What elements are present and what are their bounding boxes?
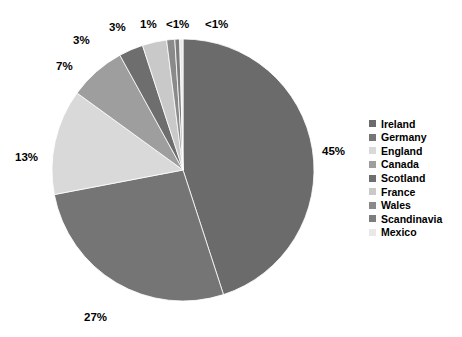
slice-label-germany: 27% <box>84 312 107 324</box>
legend-item-canada[interactable]: Canada <box>369 158 461 172</box>
legend-swatch-icon <box>369 215 376 222</box>
legend-item-england[interactable]: England <box>369 144 461 158</box>
legend-item-label: England <box>381 146 422 157</box>
legend-item-wales[interactable]: Wales <box>369 199 461 213</box>
legend-item-label: Wales <box>381 200 411 211</box>
slice-label-england: 13% <box>15 152 38 164</box>
legend-item-germany[interactable]: Germany <box>369 131 461 145</box>
legend-item-france[interactable]: France <box>369 185 461 199</box>
legend-item-mexico[interactable]: Mexico <box>369 226 461 240</box>
legend-item-label: Germany <box>381 132 427 143</box>
legend-item-label: Scotland <box>381 173 425 184</box>
pie-chart: 45% 27% 13% 7% 3% 3% 1% <1% <1% IrelandG… <box>0 0 462 337</box>
legend-item-label: France <box>381 187 415 198</box>
slice-label-mexico: <1% <box>205 19 228 31</box>
legend-swatch-icon <box>369 161 376 168</box>
legend-swatch-icon <box>369 188 376 195</box>
legend-swatch-icon <box>369 120 376 127</box>
legend-item-ireland[interactable]: Ireland <box>369 117 461 131</box>
legend-item-scandinavia[interactable]: Scandinavia <box>369 212 461 226</box>
legend-swatch-icon <box>369 175 376 182</box>
legend-item-label: Canada <box>381 159 419 170</box>
legend-item-label: Mexico <box>381 227 417 238</box>
slice-label-france: 3% <box>109 22 126 34</box>
legend-swatch-icon <box>369 134 376 141</box>
slice-label-wales: 1% <box>140 19 157 31</box>
slice-label-scotland: 3% <box>73 35 90 47</box>
legend-item-scotland[interactable]: Scotland <box>369 171 461 185</box>
legend: IrelandGermanyEnglandCanadaScotlandFranc… <box>369 117 461 239</box>
legend-swatch-icon <box>369 202 376 209</box>
legend-item-label: Scandinavia <box>381 214 442 225</box>
legend-item-label: Ireland <box>381 119 415 130</box>
slice-label-canada: 7% <box>56 61 73 73</box>
slice-label-scandinavia: <1% <box>166 19 189 31</box>
legend-swatch-icon <box>369 147 376 154</box>
legend-swatch-icon <box>369 229 376 236</box>
slice-label-ireland: 45% <box>322 146 345 158</box>
